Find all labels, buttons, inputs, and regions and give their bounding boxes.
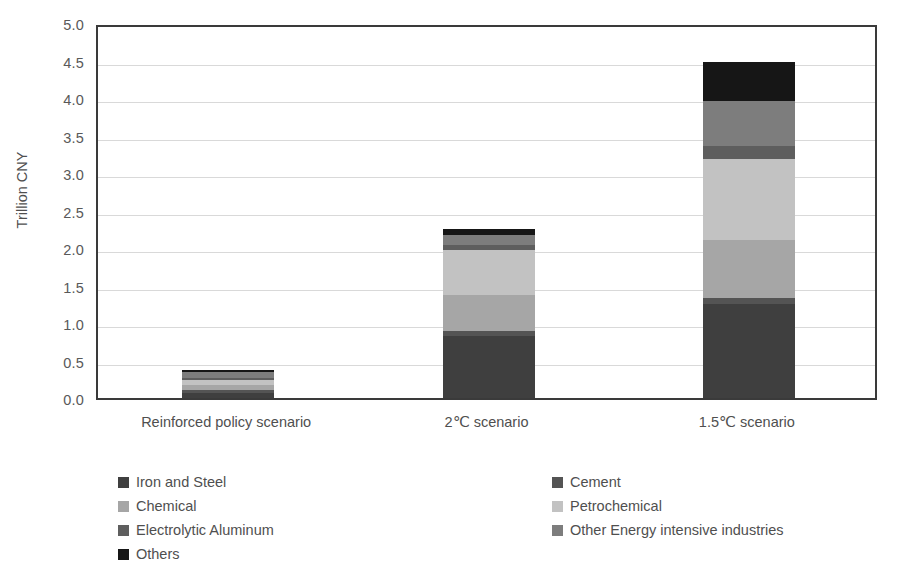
legend-item-label: Chemical <box>136 499 196 514</box>
legend-item[interactable]: Iron and Steel <box>118 470 274 494</box>
legend-item[interactable]: Cement <box>552 470 784 494</box>
legend-item[interactable]: Chemical <box>118 494 274 518</box>
y-axis-tick-label: 0.5 <box>63 355 84 371</box>
bar-segment <box>703 146 795 159</box>
legend-swatch-icon <box>552 525 563 536</box>
x-axis-category-label: Reinforced policy scenario <box>141 414 311 430</box>
y-axis-tick-label: 3.5 <box>63 130 84 146</box>
y-axis-tick-label: 2.5 <box>63 205 84 221</box>
stacked-bar <box>443 229 535 398</box>
legend-swatch-icon <box>118 501 129 512</box>
legend-swatch-icon <box>118 525 129 536</box>
plot-area <box>96 25 877 400</box>
y-axis-tick-label: 1.5 <box>63 280 84 296</box>
bar-segment <box>703 62 795 101</box>
y-axis-tick-labels: 0.00.51.01.52.02.53.03.54.04.55.0 <box>40 25 92 400</box>
legend-item-label: Cement <box>570 475 621 490</box>
x-axis-category-label: 2℃ scenario <box>445 414 529 430</box>
bar-segment <box>443 295 535 331</box>
stacked-bar <box>703 62 795 398</box>
legend-item-label: Iron and Steel <box>136 475 226 490</box>
legend-item[interactable]: Petrochemical <box>552 494 784 518</box>
legend-item[interactable]: Others <box>118 542 274 566</box>
x-axis-category-label: 1.5℃ scenario <box>699 414 795 430</box>
legend-swatch-icon <box>552 501 563 512</box>
y-axis-tick-label: 0.0 <box>63 392 84 408</box>
y-axis-tick-label: 3.0 <box>63 167 84 183</box>
legend-item[interactable]: Electrolytic Aluminum <box>118 518 274 542</box>
y-axis-title: Trillion CNY <box>14 105 30 275</box>
bar-segment <box>703 304 795 398</box>
chart-page: Trillion CNY 0.00.51.01.52.02.53.03.54.0… <box>0 0 904 584</box>
legend-swatch-icon <box>552 477 563 488</box>
bar-segment <box>703 159 795 240</box>
legend-item-label: Electrolytic Aluminum <box>136 523 274 538</box>
stacked-bar <box>182 370 274 399</box>
bar-segment <box>443 235 535 246</box>
bar-segment <box>703 101 795 146</box>
legend-swatch-icon <box>118 549 129 560</box>
bar-segment <box>443 250 535 295</box>
legend-item-label: Other Energy intensive industries <box>570 523 784 538</box>
legend-item-label: Others <box>136 547 180 562</box>
legend-column-right: CementPetrochemicalOther Energy intensiv… <box>552 470 784 542</box>
chart-legend: Iron and SteelChemicalElectrolytic Alumi… <box>118 470 878 568</box>
y-axis-tick-label: 5.0 <box>63 17 84 33</box>
legend-column-left: Iron and SteelChemicalElectrolytic Alumi… <box>118 470 274 566</box>
legend-item[interactable]: Other Energy intensive industries <box>552 518 784 542</box>
y-axis-tick-label: 4.0 <box>63 92 84 108</box>
bar-segment <box>703 240 795 299</box>
y-axis-tick-label: 2.0 <box>63 242 84 258</box>
bar-group <box>98 27 875 398</box>
bar-segment <box>443 336 535 398</box>
y-axis-tick-label: 4.5 <box>63 55 84 71</box>
legend-item-label: Petrochemical <box>570 499 662 514</box>
legend-swatch-icon <box>118 477 129 488</box>
x-axis-category-labels: Reinforced policy scenario2℃ scenario1.5… <box>96 406 877 440</box>
bar-segment <box>182 393 274 398</box>
y-axis-tick-label: 1.0 <box>63 317 84 333</box>
